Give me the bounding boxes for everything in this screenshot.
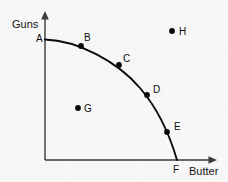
point-marker-b: [78, 43, 84, 49]
ppf-curve: [45, 40, 177, 161]
point-label-b: B: [84, 32, 91, 43]
point-marker-c: [116, 62, 122, 68]
point-label-e: E: [174, 121, 181, 132]
ppf-diagram: Guns Butter A B C D E F G H: [0, 0, 228, 182]
ppf-svg-canvas: Guns Butter A B C D E F G H: [0, 0, 228, 182]
x-axis-title: Butter: [189, 165, 219, 177]
point-marker-g: [75, 105, 81, 111]
point-marker-e: [164, 129, 170, 135]
point-label-f: F: [173, 164, 179, 175]
point-label-h: H: [179, 26, 186, 37]
point-label-a: A: [36, 33, 43, 44]
point-marker-d: [144, 92, 150, 98]
point-label-d: D: [153, 84, 160, 95]
y-axis-title: Guns: [12, 18, 39, 30]
point-label-c: C: [123, 53, 130, 64]
point-marker-h: [169, 28, 175, 34]
y-axis-arrow-icon: [41, 11, 49, 20]
point-label-g: G: [84, 103, 92, 114]
x-axis-arrow-icon: [209, 156, 218, 164]
